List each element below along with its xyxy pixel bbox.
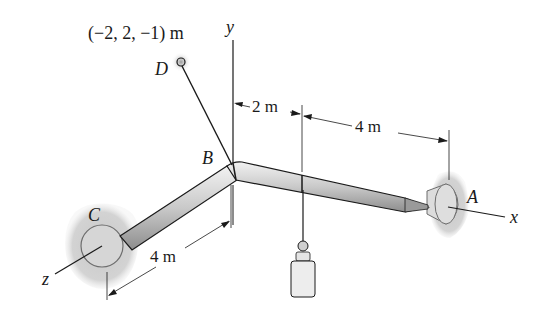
statics-diagram: (−2, 2, −1) m y D B C A x z 2 m 4 m 4 m [0, 0, 548, 314]
rod-bc [120, 166, 240, 250]
x-axis-label: x [510, 208, 518, 226]
z-axis-label: z [42, 270, 49, 288]
diagram-canvas [0, 0, 548, 314]
dim-b-to-c: 4 m [150, 248, 176, 265]
point-b-label: B [202, 149, 213, 167]
point-c-label: C [88, 206, 100, 224]
point-d-label: D [155, 60, 168, 78]
dim-b-to-load: 2 m [252, 98, 278, 115]
point-d-coordinates: (−2, 2, −1) m [88, 24, 184, 42]
point-a-label: A [467, 188, 478, 206]
y-axis-label: y [226, 18, 234, 36]
rod-ba [227, 162, 428, 212]
hanging-weight [291, 190, 315, 297]
support-a [427, 171, 469, 238]
dim-load-to-a: 4 m [355, 118, 381, 135]
